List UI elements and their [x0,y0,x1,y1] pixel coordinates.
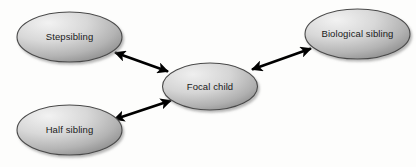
diagram-canvas: Stepsibling Biological sibling Half sibl… [0,0,416,167]
node-half-sibling-label: Half sibling [46,124,94,135]
node-focal-child-label: Focal child [187,81,234,92]
node-half-sibling[interactable]: Half sibling [17,105,122,155]
node-stepsibling[interactable]: Stepsibling [17,12,122,62]
node-stepsibling-label: Stepsibling [46,31,94,42]
relationship-diagram: Stepsibling Biological sibling Half sibl… [0,0,416,167]
node-biological-sibling[interactable]: Biological sibling [305,9,410,59]
node-focal-child[interactable]: Focal child [163,63,258,110]
edge-biological-sibling-to-focal-child [252,49,311,70]
node-biological-sibling-label: Biological sibling [321,28,393,39]
edge-half-sibling-to-focal-child [114,101,171,120]
edge-stepsibling-to-focal-child [115,53,168,72]
